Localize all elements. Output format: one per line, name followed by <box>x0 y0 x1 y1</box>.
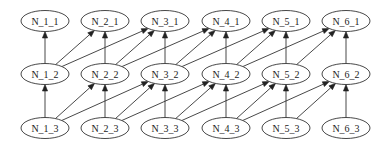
node-N_2_2[interactable]: N_2_2 <box>81 64 129 85</box>
node-N_2_1[interactable]: N_2_1 <box>81 11 129 32</box>
edge-N_3_3-to-N_4_2 <box>176 83 216 118</box>
edge-N_1_3-to-N_2_2 <box>55 83 94 118</box>
node-label: N_5_1 <box>272 16 299 27</box>
edge-N_5_3-to-N_5_2 <box>283 85 288 118</box>
edge-line <box>296 88 330 119</box>
edge-N_4_2-to-N_4_1 <box>223 32 228 64</box>
node-N_4_1[interactable]: N_4_1 <box>202 11 250 32</box>
edge-N_5_2-to-N_5_1 <box>283 32 288 64</box>
edge-line <box>115 88 149 119</box>
edge-N_2_2-to-N_2_1 <box>102 32 107 64</box>
arrowhead-icon <box>322 28 329 33</box>
edge-line <box>55 88 89 119</box>
node-N_5_1[interactable]: N_5_1 <box>262 11 310 32</box>
node-label: N_1_2 <box>31 69 58 80</box>
edge-N_6_3-to-N_6_2 <box>343 85 348 118</box>
node-N_6_2[interactable]: N_6_2 <box>322 64 370 85</box>
node-label: N_3_1 <box>151 16 178 27</box>
node-label: N_4_1 <box>212 16 239 27</box>
node-N_3_1[interactable]: N_3_1 <box>141 11 189 32</box>
node-N_4_2[interactable]: N_4_2 <box>202 64 250 85</box>
node-label: N_4_3 <box>212 123 239 134</box>
arrowhead-icon <box>262 82 269 87</box>
node-label: N_6_1 <box>332 16 359 27</box>
arrowhead-icon <box>102 85 107 92</box>
node-N_1_1[interactable]: N_1_1 <box>21 11 69 32</box>
node-N_1_3[interactable]: N_1_3 <box>21 118 69 139</box>
edge-N_5_3-to-N_6_2 <box>296 83 335 118</box>
edge-line <box>176 88 211 119</box>
arrowhead-icon <box>283 32 288 39</box>
edge-line <box>237 35 271 65</box>
node-N_5_3[interactable]: N_5_3 <box>262 118 310 139</box>
edge-line <box>176 35 211 65</box>
node-label: N_1_3 <box>31 123 58 134</box>
node-N_1_2[interactable]: N_1_2 <box>21 64 69 85</box>
edge-line <box>236 88 270 119</box>
node-N_2_3[interactable]: N_2_3 <box>81 118 129 139</box>
arrowhead-icon <box>322 82 329 87</box>
edge-line <box>116 35 150 65</box>
arrowhead-icon <box>162 85 167 92</box>
edge-N_2_3-to-N_3_2 <box>115 83 154 118</box>
arrowhead-icon <box>223 85 228 92</box>
node-N_6_1[interactable]: N_6_1 <box>322 11 370 32</box>
node-label: N_4_2 <box>212 69 239 80</box>
edge-N_2_2-to-N_3_1 <box>116 30 155 64</box>
arrowhead-icon <box>141 28 148 33</box>
arrowhead-icon <box>202 28 209 33</box>
node-N_6_3[interactable]: N_6_3 <box>322 118 370 139</box>
node-label: N_1_1 <box>31 16 58 27</box>
node-label: N_3_2 <box>151 69 178 80</box>
node-N_3_2[interactable]: N_3_2 <box>141 64 189 85</box>
edge-line <box>56 35 90 65</box>
node-label: N_6_2 <box>332 69 359 80</box>
edge-N_4_3-to-N_5_2 <box>236 83 275 118</box>
edge-N_5_2-to-N_6_1 <box>297 30 336 64</box>
arrowhead-icon <box>42 32 47 39</box>
edge-N_3_3-to-N_3_2 <box>162 85 167 118</box>
edge-N_1_2-to-N_2_1 <box>56 30 95 64</box>
node-N_4_3[interactable]: N_4_3 <box>202 118 250 139</box>
edge-N_4_3-to-N_4_2 <box>223 85 228 118</box>
arrowhead-icon <box>102 32 107 39</box>
edge-N_4_2-to-N_5_1 <box>237 30 276 64</box>
node-label: N_2_1 <box>91 16 118 27</box>
arrowhead-icon <box>141 82 148 87</box>
arrowhead-icon <box>262 28 269 33</box>
node-label: N_3_3 <box>151 123 178 134</box>
node-label: N_5_2 <box>272 69 299 80</box>
node-label: N_2_2 <box>91 69 118 80</box>
node-label: N_2_3 <box>91 123 118 134</box>
arrowhead-icon <box>343 85 348 92</box>
arrowhead-icon <box>202 82 209 87</box>
edge-N_1_2-to-N_1_1 <box>42 32 47 64</box>
arrowhead-icon <box>162 32 167 39</box>
node-N_3_3[interactable]: N_3_3 <box>141 118 189 139</box>
graph-canvas: N_1_1N_2_1N_3_1N_4_1N_5_1N_6_1N_1_2N_2_2… <box>0 0 391 151</box>
arrowhead-icon <box>283 85 288 92</box>
arrowhead-icon <box>223 32 228 39</box>
edge-line <box>297 35 331 65</box>
edge-N_3_2-to-N_3_1 <box>162 32 167 64</box>
arrowhead-icon <box>42 85 47 92</box>
edge-N_2_3-to-N_2_2 <box>102 85 107 118</box>
node-label: N_6_3 <box>332 123 359 134</box>
edge-N_6_2-to-N_6_1 <box>343 32 348 64</box>
node-label: N_5_3 <box>272 123 299 134</box>
edge-N_1_3-to-N_1_2 <box>42 85 47 118</box>
node-N_5_2[interactable]: N_5_2 <box>262 64 310 85</box>
nodes-layer: N_1_1N_2_1N_3_1N_4_1N_5_1N_6_1N_1_2N_2_2… <box>21 11 370 139</box>
edge-N_3_2-to-N_4_1 <box>176 30 215 64</box>
arrowhead-icon <box>343 32 348 39</box>
